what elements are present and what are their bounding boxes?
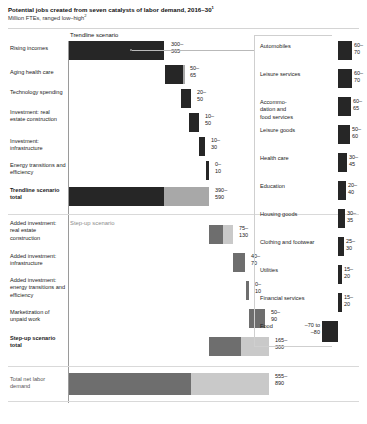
subtitle-footnote-marker: 2 (84, 13, 86, 18)
sector-bar (322, 321, 338, 342)
callout-connector-dot (130, 49, 132, 51)
waterfall-row: Technology spending20– 50 (8, 89, 246, 108)
sector-value-label: 60– 70 (354, 70, 363, 84)
waterfall-value-label: 50– 65 (190, 65, 199, 79)
sector-bar (338, 125, 350, 144)
waterfall-value-label: 10– 30 (211, 137, 220, 151)
waterfall-row: Added investment: real estate constructi… (8, 225, 246, 244)
sector-value-label: 15– 20 (344, 266, 353, 280)
waterfall-row: Total net labor demand555– 890 (8, 373, 246, 395)
waterfall-row-label: Energy transitions and efficiency (10, 162, 66, 177)
waterfall-row-label: Step-up scenario total (10, 335, 66, 350)
waterfall-row-label: Total net labor demand (10, 376, 66, 391)
sector-value-label: 60– 70 (354, 42, 363, 56)
waterfall-bar (246, 281, 249, 300)
chart-body: Trendline scenario Step-up scenario Risi… (8, 32, 359, 410)
waterfall-bar (206, 161, 209, 180)
sector-row: Clothing and footwear25– 30 (254, 237, 359, 256)
bar-segment-low (246, 281, 249, 300)
waterfall-row-label: Added investment: energy transitions and… (10, 277, 66, 299)
bar-segment-low (233, 253, 245, 272)
waterfall-row: Added investment: infrastructure40– 70 (8, 253, 246, 272)
sector-value-label: 30– 35 (347, 210, 356, 224)
waterfall-row: Investment: infrastructure10– 30 (8, 137, 246, 156)
chart-header: Potential jobs created from seven cataly… (8, 6, 359, 22)
sector-row-label: Utilities (260, 267, 318, 274)
waterfall-value-label: 20– 50 (197, 89, 206, 103)
waterfall-bar (199, 137, 205, 156)
bar-segment-high (164, 187, 209, 206)
sector-row-label: Accommo- dation and food services (260, 99, 318, 121)
sector-row: Utilities15– 20 (254, 265, 359, 284)
sector-row: Accommo- dation and food services60– 65 (254, 97, 359, 116)
callout-connector-line (132, 50, 254, 51)
title-footnote-marker: 1 (212, 5, 214, 10)
waterfall-value-label: 300– 365 (171, 41, 183, 55)
waterfall-value-label: 0– 10 (215, 161, 221, 175)
sector-panel: Automobiles60– 70Leisure services60– 70A… (254, 32, 359, 410)
waterfall-row: Investment: real estate construction10– … (8, 113, 246, 132)
waterfall-row: Trendline scenario total390– 590 (8, 187, 246, 206)
sector-bar (338, 153, 347, 172)
waterfall-bar (165, 65, 185, 84)
sector-row: Automobiles60– 70 (254, 41, 359, 60)
sector-row: Leisure goods50– 60 (254, 125, 359, 144)
waterfall-row: Added investment: energy transitions and… (8, 281, 246, 300)
sector-row-label: Health care (260, 155, 318, 162)
sector-value-label: 25– 30 (346, 238, 355, 252)
waterfall-row-label: Marketization of unpaid work (10, 309, 66, 324)
waterfall-row-label: Technology spending (10, 89, 66, 96)
waterfall-row: Energy transitions and efficiency0– 10 (8, 161, 246, 180)
sector-row: Health care30– 45 (254, 153, 359, 172)
sector-bar (338, 181, 346, 200)
sector-row-label: Financial services (260, 295, 318, 302)
bar-segment-high (183, 65, 185, 84)
waterfall-bar (69, 187, 209, 206)
waterfall-row-label: Rising incomes (10, 45, 66, 52)
waterfall-row-label: Trendline scenario total (10, 187, 66, 202)
sector-bar (338, 209, 345, 228)
sector-row: Leisure services60– 70 (254, 69, 359, 88)
waterfall-row-label: Aging health care (10, 69, 66, 76)
sector-bar (338, 237, 344, 256)
exhibit-root: Potential jobs created from seven cataly… (0, 0, 367, 424)
sector-bar (338, 97, 351, 116)
sector-row-label: Housing goods (260, 211, 318, 218)
header-divider (8, 28, 359, 29)
sector-value-label: 50– 60 (352, 126, 361, 140)
bar-segment-low (206, 161, 209, 180)
sector-row: Education20– 40 (254, 181, 359, 200)
sector-value-label: –70 to –80 (294, 322, 320, 336)
sector-bar (338, 69, 352, 88)
sector-value-label: 20– 40 (348, 182, 357, 196)
sector-row: Financial services15– 20 (254, 293, 359, 312)
sector-value-label: 30– 45 (349, 154, 358, 168)
sector-value-label: 15– 20 (344, 294, 353, 308)
trendline-scenario-tag: Trendline scenario (70, 32, 118, 38)
sector-value-label: 60– 65 (353, 98, 362, 112)
sector-bar (338, 41, 352, 60)
bar-segment-low (69, 373, 191, 395)
sector-row: Food–70 to –80 (254, 321, 359, 342)
waterfall-row-label: Investment: real estate construction (10, 109, 66, 124)
waterfall-row: Step-up scenario total165– 300 (8, 337, 246, 356)
bar-segment-high (223, 225, 233, 244)
waterfall-bar (209, 225, 233, 244)
page-title: Potential jobs created from seven cataly… (8, 6, 359, 14)
waterfall-value-label: 10– 50 (205, 113, 214, 127)
sector-row-label: Education (260, 183, 318, 190)
chart-subtitle: Million FTEs, ranged low–high2 (8, 15, 359, 22)
sector-row-label: Clothing and footwear (260, 239, 318, 246)
sector-row-label: Leisure goods (260, 127, 318, 134)
sector-bar (338, 293, 342, 312)
waterfall-row-label: Added investment: real estate constructi… (10, 220, 66, 242)
bar-segment-low (165, 65, 183, 84)
bar-segment-low (209, 337, 241, 356)
waterfall-bar (189, 113, 199, 132)
waterfall-bar (181, 89, 191, 108)
waterfall-bar (233, 253, 245, 272)
bar-segment-low (69, 187, 164, 206)
waterfall-row: Marketization of unpaid work50– 90 (8, 309, 246, 328)
bar-segment-low (209, 225, 223, 244)
bar-segment-low (189, 113, 199, 132)
